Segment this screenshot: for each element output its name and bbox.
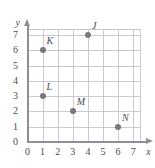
data-point-n <box>115 124 121 130</box>
gridline-vertical <box>140 29 141 142</box>
gridline-vertical <box>88 29 89 142</box>
gridline-vertical <box>73 29 74 142</box>
y-tick-label: 7 <box>10 30 22 40</box>
data-point-k <box>40 47 46 53</box>
gridline-vertical <box>133 29 134 142</box>
plot-area: 0123456701234567yxJKLMN <box>0 0 155 168</box>
gridline-vertical <box>58 29 59 142</box>
x-axis-label: x <box>146 147 150 157</box>
gridline-horizontal <box>28 66 141 67</box>
y-axis <box>27 25 29 143</box>
x-tick-label: 6 <box>112 147 124 157</box>
coordinate-plane-figure: 0123456701234567yxJKLMN <box>0 0 155 168</box>
x-tick-label: 1 <box>37 147 49 157</box>
y-tick-label: 4 <box>10 76 22 86</box>
x-axis-arrow-icon <box>146 138 153 144</box>
gridline-vertical <box>103 29 104 142</box>
gridline-vertical <box>43 29 44 142</box>
gridline-horizontal <box>28 127 141 128</box>
x-axis <box>27 141 147 143</box>
y-tick-label: 1 <box>10 122 22 132</box>
gridline-horizontal <box>28 35 141 36</box>
data-point-label-k: K <box>47 36 54 46</box>
y-tick-label: 2 <box>10 106 22 116</box>
data-point-label-j: J <box>92 21 96 31</box>
gridline-horizontal <box>28 81 141 82</box>
x-tick-label: 2 <box>52 147 64 157</box>
data-point-label-n: N <box>122 113 129 123</box>
data-point-label-m: M <box>77 97 85 107</box>
y-tick-label: 0 <box>10 137 22 147</box>
data-point-m <box>70 108 76 114</box>
y-tick-label: 5 <box>10 61 22 71</box>
x-tick-label: 4 <box>82 147 94 157</box>
y-axis-arrow-icon <box>24 19 30 26</box>
data-point-j <box>85 32 91 38</box>
x-tick-label: 3 <box>67 147 79 157</box>
y-axis-label: y <box>16 18 20 28</box>
y-tick-label: 6 <box>10 45 22 55</box>
x-tick-label: 0 <box>22 147 34 157</box>
data-point-label-l: L <box>47 82 53 92</box>
x-tick-label: 7 <box>127 147 139 157</box>
gridline-horizontal <box>28 29 141 30</box>
x-tick-label: 5 <box>97 147 109 157</box>
y-tick-label: 3 <box>10 91 22 101</box>
data-point-l <box>40 93 46 99</box>
